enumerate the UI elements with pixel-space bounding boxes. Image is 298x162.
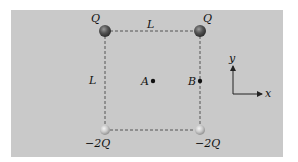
- charge-top-left-icon: [99, 25, 111, 37]
- charge-top-right-icon: [194, 25, 206, 37]
- point-b-dot: [198, 79, 202, 83]
- point-label-b: B: [188, 76, 196, 87]
- axes-icon: [233, 66, 262, 94]
- side-label-left: L: [89, 75, 96, 86]
- x-axis-label: x: [265, 88, 271, 99]
- charge-label-top-left: Q: [91, 13, 100, 24]
- charge-bottom-right-icon: [195, 125, 205, 135]
- charge-label-bottom-right: −2Q: [195, 138, 220, 149]
- charge-bottom-left-icon: [100, 125, 110, 135]
- charge-label-top-right: Q: [203, 13, 212, 24]
- y-axis-label: y: [229, 53, 235, 64]
- point-label-a: A: [141, 76, 149, 87]
- point-a-dot: [151, 79, 155, 83]
- side-label-top: L: [147, 19, 154, 30]
- charge-label-bottom-left: −2Q: [85, 138, 110, 149]
